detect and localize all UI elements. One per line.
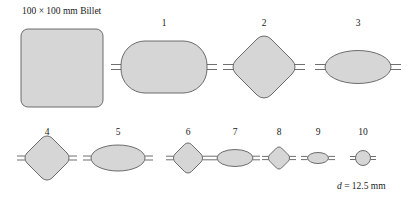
pass-6-shape: [174, 143, 203, 173]
pass-10-group: 10: [350, 127, 376, 166]
final-dimension-note: d = 12.5 mm: [337, 181, 386, 191]
pass-9-label: 9: [316, 127, 321, 137]
pass-4-shape: [25, 136, 69, 180]
forming-pass-sequence-diagram: 100 × 100 mm Billet 1 2 3: [0, 0, 414, 200]
billet-section: [21, 29, 103, 107]
pass-9-group: 9: [301, 127, 335, 164]
pass-4-group: 4: [17, 127, 77, 180]
pass-7-group: 7: [210, 127, 260, 167]
pass-5-group: 5: [83, 127, 153, 171]
pass-5-label: 5: [116, 127, 121, 137]
pass-6-group: 6: [166, 127, 210, 173]
pass-3-label: 3: [356, 18, 361, 28]
pass-6-label: 6: [186, 127, 191, 137]
pass-5-shape: [91, 145, 145, 171]
pass-2-group: 2: [223, 18, 305, 98]
pass-3-group: 3: [315, 18, 401, 84]
pass-7-label: 7: [233, 127, 238, 137]
pass-7-shape: [217, 150, 253, 167]
pass-10-shape: [356, 151, 371, 166]
pass-9-shape: [308, 153, 329, 164]
pass-8-label: 8: [277, 127, 282, 137]
pass-2-label: 2: [262, 18, 267, 28]
pass-8-group: 8: [262, 127, 296, 169]
pass-1-group: 1: [111, 18, 217, 93]
billet-shape: [21, 29, 103, 107]
pass-10-label: 10: [358, 127, 368, 137]
pass-8-shape: [269, 147, 290, 169]
pass-3-shape: [325, 51, 391, 84]
diagram-canvas: 100 × 100 mm Billet 1 2 3: [0, 0, 414, 200]
final-dimension-value: = 12.5 mm: [342, 181, 386, 191]
pass-1-shape: [121, 41, 207, 93]
pass-4-label: 4: [45, 127, 50, 137]
pass-1-label: 1: [162, 18, 167, 28]
pass-2-shape: [233, 36, 295, 98]
billet-caption: 100 × 100 mm Billet: [22, 6, 102, 16]
